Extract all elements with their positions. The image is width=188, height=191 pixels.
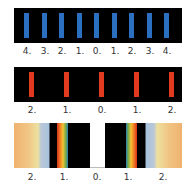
diffraction-line: [94, 13, 99, 38]
diffraction-line: [164, 13, 169, 38]
order-label: 1.: [124, 173, 133, 182]
order-label: 2.: [128, 47, 137, 56]
diffraction-line: [77, 13, 82, 38]
zero-order-baseline: [90, 167, 105, 168]
order-label: 0.: [93, 173, 102, 182]
blue-pattern-panel: [14, 8, 182, 43]
diffraction-line: [134, 72, 139, 97]
order-label: 0.: [93, 47, 102, 56]
diffraction-line: [64, 72, 69, 97]
order-label: 2.: [159, 173, 168, 182]
diffraction-line: [99, 72, 104, 97]
order-label: 2.: [28, 173, 37, 182]
order-label: 1.: [76, 47, 85, 56]
order-label: 4.: [23, 47, 32, 56]
order-label: 0.: [98, 106, 107, 115]
diffraction-line: [169, 72, 174, 97]
diffraction-line: [147, 13, 152, 38]
diffraction-line: [59, 13, 64, 38]
diffraction-line: [129, 13, 134, 38]
order-label: 1.: [111, 47, 120, 56]
order-label: 1.: [60, 173, 69, 182]
order-label: 2.: [168, 106, 177, 115]
diffraction-line: [24, 13, 29, 38]
order-label: 4.: [163, 47, 172, 56]
order-label: 2.: [28, 106, 37, 115]
red-pattern-panel: [14, 67, 182, 102]
order-label: 3.: [41, 47, 50, 56]
order-label: 1.: [133, 106, 142, 115]
diffraction-line: [112, 13, 117, 38]
order-label: 2.: [58, 47, 67, 56]
white-light-right-spectrum: [105, 123, 182, 168]
diffraction-line: [42, 13, 47, 38]
white-light-left-spectrum: [14, 123, 90, 168]
order-label: 1.: [63, 106, 72, 115]
order-label: 3.: [146, 47, 155, 56]
diffraction-line: [29, 72, 34, 97]
